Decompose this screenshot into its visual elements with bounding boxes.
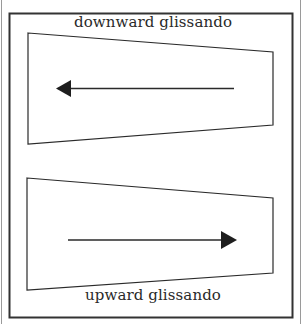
right-arrow-head-icon	[221, 231, 237, 249]
bottom-label: upward glissando	[0, 286, 306, 304]
left-arrow-head-icon	[56, 80, 71, 97]
glissando-diagram	[0, 0, 306, 324]
top-label: downward glissando	[0, 13, 306, 31]
upward-glissando-shape	[27, 178, 273, 290]
inner-frame	[10, 14, 293, 318]
